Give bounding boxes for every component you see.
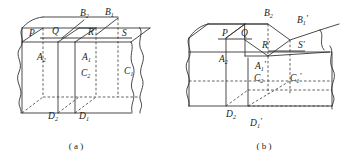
label-Q: Q: [52, 26, 59, 36]
label-P: P: [28, 28, 35, 38]
label-B1-prime: B1': [297, 13, 309, 26]
panel-a-left-top-torn: [22, 17, 43, 28]
label-R-prime: R': [261, 39, 271, 50]
panel-b-left-torn-edge: [186, 38, 190, 106]
label-B1: B1: [105, 7, 114, 18]
label-S-prime: S': [298, 39, 306, 50]
panel-b-top-right-face: [290, 30, 320, 40]
label-R: R: [87, 27, 94, 37]
label-P-b: P: [221, 28, 228, 38]
panel-a-right-torn-edge: [140, 28, 144, 113]
label-A1: A1: [81, 52, 91, 63]
panel-a-R-to-B1: [96, 18, 118, 35]
label-Q-b: Q: [241, 28, 248, 38]
caption-a: ( a ): [69, 141, 84, 151]
label-C1-prime: C1': [290, 71, 302, 84]
panel-b-oblique-left: [189, 24, 208, 38]
label-D1-prime: D1': [249, 116, 263, 129]
panel-b-hidden-diag-1: [226, 90, 248, 106]
label-S: S: [122, 28, 127, 38]
panel-b-top-right-oblique: [320, 24, 339, 30]
label-A2: A2: [36, 52, 46, 63]
panel-a-plane1-oblique: [58, 28, 79, 42]
panel-b-top-right-edge: [268, 52, 330, 56]
label-A1-prime: A1': [254, 59, 267, 72]
label-C2-b: C2: [254, 73, 263, 84]
panel-b-labels: P Q R' S' B2 B1' A2 A1' C2 C1' D2 D1': [218, 8, 309, 129]
panel-a-plane3-hidden-diag: [58, 97, 79, 113]
geometry-diagram: P Q R S B2 B1 A2 A1 C2 C1 D2 D1 ( a ): [0, 0, 364, 161]
panel-a-Q-to-B2: [62, 20, 84, 38]
panel-a-plane1-hidden-diag: [22, 97, 43, 113]
label-B2-b: B2: [264, 8, 273, 19]
figure-container: P Q R S B2 B1 A2 A1 C2 C1 D2 D1 ( a ): [0, 0, 364, 161]
panel-b-hidden-diag-2: [248, 81, 290, 106]
panel-b: P Q R' S' B2 B1' A2 A1' C2 C1' D2 D1' ( …: [186, 8, 339, 151]
caption-b: ( b ): [257, 141, 272, 151]
panel-a: P Q R S B2 B1 A2 A1 C2 C1 D2 D1 ( a ): [18, 7, 150, 151]
label-C2: C2: [81, 68, 90, 79]
label-D2-b: D2: [225, 109, 236, 120]
label-C1: C1: [124, 66, 133, 77]
panel-b-right-back-torn: [320, 30, 324, 50]
label-B2: B2: [80, 8, 89, 19]
panel-a-right-front-torn: [131, 42, 134, 112]
